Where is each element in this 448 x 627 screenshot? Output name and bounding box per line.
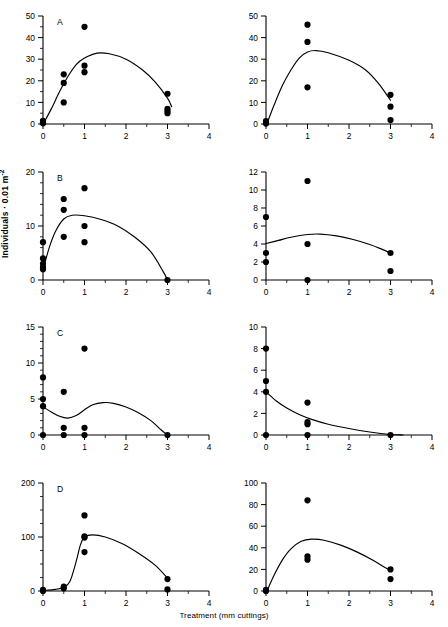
y-tick-label: 50	[249, 11, 259, 21]
x-tick-label: 3	[388, 598, 393, 608]
data-point	[304, 277, 310, 283]
x-tick-label: 3	[165, 131, 170, 141]
data-point	[304, 400, 310, 406]
x-tick-label: 4	[430, 598, 435, 608]
axis-lines	[43, 16, 209, 124]
x-tick-label: 4	[207, 442, 212, 452]
y-tick-label: 10	[26, 98, 36, 108]
y-tick-label: 0	[253, 119, 258, 129]
y-axis-label-text: Individuals · 0.01 m	[0, 176, 10, 258]
y-tick-label: 8	[253, 344, 258, 354]
y-tick-label: 4	[253, 387, 258, 397]
panel-label: B	[57, 173, 63, 183]
fitted-curve	[43, 403, 168, 435]
panel-label: A	[57, 17, 63, 27]
y-tick-label: 10	[249, 98, 259, 108]
data-point	[387, 576, 393, 582]
x-tick-label: 1	[82, 598, 87, 608]
data-point	[61, 234, 67, 240]
data-point	[61, 425, 67, 431]
data-point	[387, 250, 393, 256]
data-point	[164, 586, 170, 592]
axis-lines	[266, 327, 432, 435]
y-tick-label: 0	[253, 586, 258, 596]
fitted-curve	[267, 51, 390, 123]
axis-lines	[266, 483, 432, 591]
y-tick-label: 10	[249, 185, 259, 195]
panel-panel-D-left: 012340100200D	[21, 478, 212, 608]
data-point	[40, 588, 46, 594]
y-tick-label: 8	[253, 203, 258, 213]
y-tick-label: 0	[30, 430, 35, 440]
x-tick-label: 1	[305, 287, 310, 297]
y-tick-label: 20	[26, 76, 36, 86]
data-point	[304, 421, 310, 427]
data-point	[40, 403, 46, 409]
axis-lines	[43, 483, 209, 591]
data-point	[40, 374, 46, 380]
x-tick-label: 2	[347, 287, 352, 297]
x-tick-label: 2	[124, 598, 129, 608]
data-point	[263, 389, 269, 395]
data-point	[81, 425, 87, 431]
data-point	[81, 432, 87, 438]
x-tick-label: 0	[41, 287, 46, 297]
fitted-curve	[44, 215, 168, 280]
data-point	[81, 69, 87, 75]
data-point	[40, 396, 46, 402]
data-point	[263, 378, 269, 384]
axis-lines	[43, 172, 209, 280]
data-point	[61, 71, 67, 77]
panel-panel-B-right: 01234024681012	[249, 167, 435, 297]
data-point	[304, 432, 310, 438]
x-tick-label: 0	[41, 131, 46, 141]
x-tick-label: 0	[264, 287, 269, 297]
x-tick-label: 3	[388, 287, 393, 297]
y-tick-label: 80	[249, 500, 259, 510]
panel-label: D	[57, 484, 63, 494]
data-point	[263, 432, 269, 438]
y-tick-label: 0	[30, 586, 35, 596]
y-tick-label: 30	[26, 54, 36, 64]
y-axis-label: Individuals · 0.01 m-2	[0, 138, 10, 258]
data-point	[40, 239, 46, 245]
panel-panel-C-left: 01234051015C	[26, 322, 212, 452]
y-tick-label: 0	[253, 430, 258, 440]
x-tick-label: 4	[207, 131, 212, 141]
data-point	[164, 277, 170, 283]
fitted-curve	[266, 234, 391, 253]
data-point	[263, 214, 269, 220]
data-point	[81, 185, 87, 191]
y-tick-label: 10	[26, 358, 36, 368]
panel-panel-B-left: 0123401020B	[26, 167, 212, 297]
data-point	[40, 255, 46, 261]
x-tick-label: 1	[82, 442, 87, 452]
y-tick-label: 0	[30, 119, 35, 129]
x-tick-label: 1	[305, 598, 310, 608]
y-tick-label: 60	[249, 521, 259, 531]
x-tick-label: 1	[305, 442, 310, 452]
data-point	[61, 207, 67, 213]
data-point	[304, 22, 310, 28]
axis-lines	[43, 327, 209, 435]
data-point	[81, 346, 87, 352]
y-tick-label: 10	[26, 221, 36, 231]
x-tick-label: 4	[207, 598, 212, 608]
x-tick-label: 0	[41, 598, 46, 608]
y-tick-label: 12	[249, 167, 259, 177]
data-point	[61, 585, 67, 591]
panel-panel-D-right: 01234020406080100	[244, 478, 435, 608]
y-axis-label-exponent: -2	[0, 169, 5, 175]
y-tick-label: 40	[26, 33, 36, 43]
y-tick-label: 40	[249, 33, 259, 43]
x-tick-label: 3	[388, 131, 393, 141]
data-point	[263, 259, 269, 265]
y-tick-label: 20	[249, 565, 259, 575]
y-tick-label: 40	[249, 543, 259, 553]
data-point	[387, 268, 393, 274]
x-tick-label: 2	[124, 442, 129, 452]
data-point	[387, 92, 393, 98]
panel-label: C	[57, 328, 63, 338]
data-point	[164, 576, 170, 582]
x-tick-label: 4	[207, 287, 212, 297]
